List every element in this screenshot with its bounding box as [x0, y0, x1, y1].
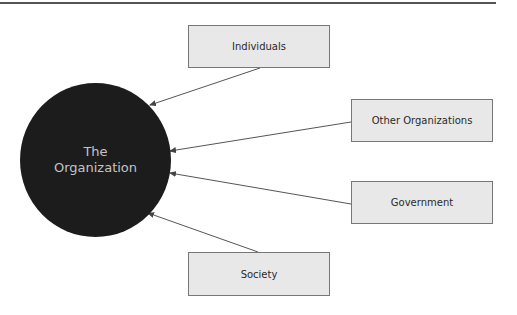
arrow-other-organizations-to-organization	[170, 122, 351, 151]
node-label: Other Organizations	[372, 115, 473, 126]
node-other-organizations: Other Organizations	[351, 99, 493, 142]
arrow-society-to-organization	[148, 213, 258, 252]
node-label: Individuals	[232, 41, 286, 52]
node-society: Society	[188, 252, 330, 296]
node-government: Government	[351, 181, 493, 224]
arrow-government-to-organization	[170, 173, 351, 204]
organization-label-line1: The	[83, 144, 107, 160]
node-label: Government	[391, 197, 453, 208]
node-individuals: Individuals	[188, 25, 330, 68]
arrow-individuals-to-organization	[150, 68, 260, 105]
organization-label-line2: Organization	[54, 160, 137, 176]
node-label: Society	[241, 269, 278, 280]
organization-circle-node: The Organization	[20, 83, 171, 237]
